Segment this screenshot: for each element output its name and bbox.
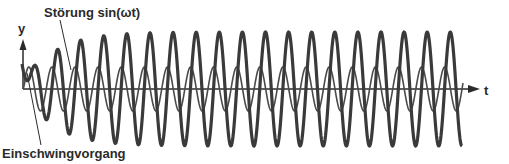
t-axis-arrow-icon [468, 85, 480, 93]
plot-area [0, 0, 509, 164]
disturbance-label: Störung sin(ωt) [44, 6, 140, 19]
y-axis-arrow-icon [20, 39, 27, 50]
t-axis-label: t [484, 84, 488, 97]
transient-label: Einschwingvorgang [2, 147, 126, 160]
resonance-diagram: Störung sin(ωt) Einschwingvorgang y t [0, 0, 509, 164]
y-axis-label: y [18, 22, 25, 35]
